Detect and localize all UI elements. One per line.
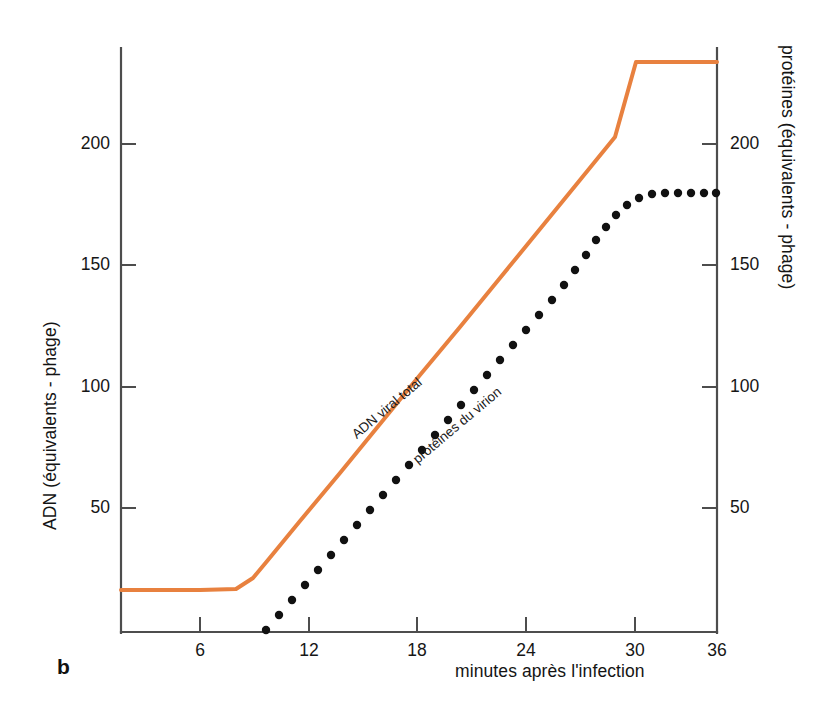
x-tick-label-12: 12 xyxy=(284,640,334,661)
x-tick-label-24: 24 xyxy=(501,640,551,661)
y-tick-label-left-100: 100 xyxy=(52,376,110,397)
figure-panel-b: ADN (équivalents - phage) protéines (équ… xyxy=(0,0,820,710)
series-dna-viral-total xyxy=(121,62,717,590)
y-tick-label-left-150: 150 xyxy=(52,254,110,275)
y-tick-label-right-200: 200 xyxy=(730,133,788,154)
series-proteines-du-virion xyxy=(262,189,720,634)
y-tick-label-right-100: 100 xyxy=(730,376,788,397)
x-axis-label: minutes après l'infection xyxy=(455,661,645,682)
x-tick-label-6: 6 xyxy=(175,640,225,661)
panel-letter: b xyxy=(57,655,70,679)
y-tick-label-right-150: 150 xyxy=(730,254,788,275)
plot-canvas xyxy=(0,0,820,710)
x-tick-label-30: 30 xyxy=(610,640,660,661)
x-tick-label-18: 18 xyxy=(392,640,442,661)
y-ticks-left xyxy=(121,144,136,508)
axes-frame xyxy=(121,48,717,633)
y-tick-label-right-50: 50 xyxy=(730,497,788,518)
x-tick-label-36: 36 xyxy=(692,640,742,661)
y-axis-label-right: protéines (équivalents - phage) xyxy=(777,45,798,289)
y-ticks-right xyxy=(702,144,717,508)
y-tick-label-left-200: 200 xyxy=(52,133,110,154)
y-tick-label-left-50: 50 xyxy=(52,497,110,518)
